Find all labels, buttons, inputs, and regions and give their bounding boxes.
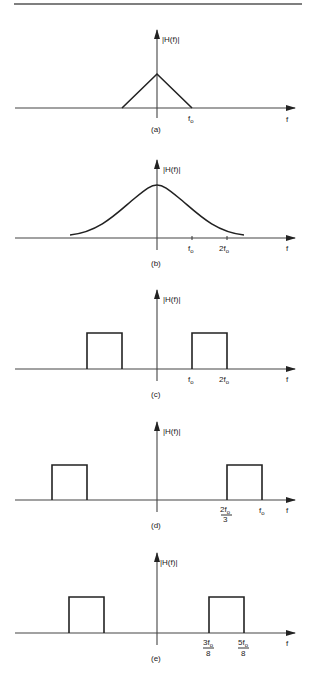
x-axis-label: f (286, 375, 289, 384)
panel-caption: (c) (151, 390, 161, 399)
x-axis-label: f (286, 244, 289, 253)
tick-label-3fo-8-den: 8 (206, 649, 211, 658)
tick-label-2fo-3-num: 2fo (220, 505, 231, 515)
tick-label-fo: fo (259, 506, 265, 516)
y-axis-label: |H(f)| (163, 427, 180, 436)
panel-b: |H(f)| fo 2fo f (b) (15, 160, 295, 268)
tick-label-5fo-8-den: 8 (241, 649, 246, 658)
tick-label-2fo-3-den: 3 (223, 515, 228, 524)
panel-caption: (d) (151, 521, 161, 530)
tick-label-fo: fo (188, 114, 194, 124)
tick-label-2fo: 2fo (219, 244, 230, 254)
positive-passband (192, 333, 227, 369)
tick-label-3fo-8-num: 3fo (203, 638, 214, 648)
tick-label-fo: fo (188, 244, 194, 254)
x-axis-label: f (286, 639, 289, 648)
y-axis-label: |H(f)| (163, 295, 180, 304)
tick-label-fo: fo (188, 375, 194, 385)
tick-label-5fo-8-num: 5fo (238, 638, 249, 648)
x-axis-label: f (286, 115, 289, 124)
panel-d: |H(f)| 2fo 3 fo f (d) (15, 422, 295, 530)
positive-passband (227, 465, 262, 500)
negative-passband (69, 597, 104, 633)
panel-caption: (b) (151, 259, 161, 268)
panel-a: |H(f)| fo f (a) (15, 30, 295, 134)
panel-caption: (a) (151, 125, 161, 134)
filter-response-figure: |H(f)| fo f (a) |H(f)| fo 2fo f (b) |H(f… (0, 0, 310, 686)
y-axis-label: |H(f)| (162, 35, 179, 44)
negative-passband (52, 465, 87, 500)
panel-c: |H(f)| fo 2fo f (c) (15, 290, 295, 399)
tick-label-2fo: 2fo (219, 375, 230, 385)
negative-passband (87, 333, 122, 369)
y-axis-label: |H(f)| (160, 558, 177, 567)
positive-passband (209, 597, 244, 633)
panel-caption: (e) (151, 654, 161, 663)
y-axis-label: |H(f)| (163, 165, 180, 174)
panel-e: |H(f)| 3fo 8 5fo 8 f (e) (15, 553, 295, 663)
x-axis-label: f (286, 506, 289, 515)
